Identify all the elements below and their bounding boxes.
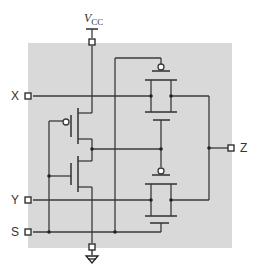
- ground-icon: [86, 250, 98, 263]
- x-terminal[interactable]: [25, 93, 31, 99]
- s-terminal[interactable]: [25, 229, 31, 235]
- schematic: [0, 0, 264, 277]
- input-label-y: Y: [11, 194, 19, 206]
- supply-label-subscript: CC: [91, 17, 103, 27]
- supply-label: VCC: [84, 11, 103, 27]
- input-label-x: X: [11, 90, 19, 102]
- z-terminal[interactable]: [228, 145, 234, 151]
- vcc-terminal[interactable]: [89, 39, 95, 45]
- y-terminal[interactable]: [25, 197, 31, 203]
- output-label-z: Z: [240, 142, 247, 154]
- input-label-s: S: [11, 226, 19, 238]
- chip-background: [28, 43, 232, 248]
- ground-terminal[interactable]: [89, 244, 95, 250]
- upper-tg-bubble-icon: [158, 64, 164, 70]
- pmos-bubble-icon: [63, 119, 69, 125]
- lower-tg-bubble-icon: [158, 168, 164, 174]
